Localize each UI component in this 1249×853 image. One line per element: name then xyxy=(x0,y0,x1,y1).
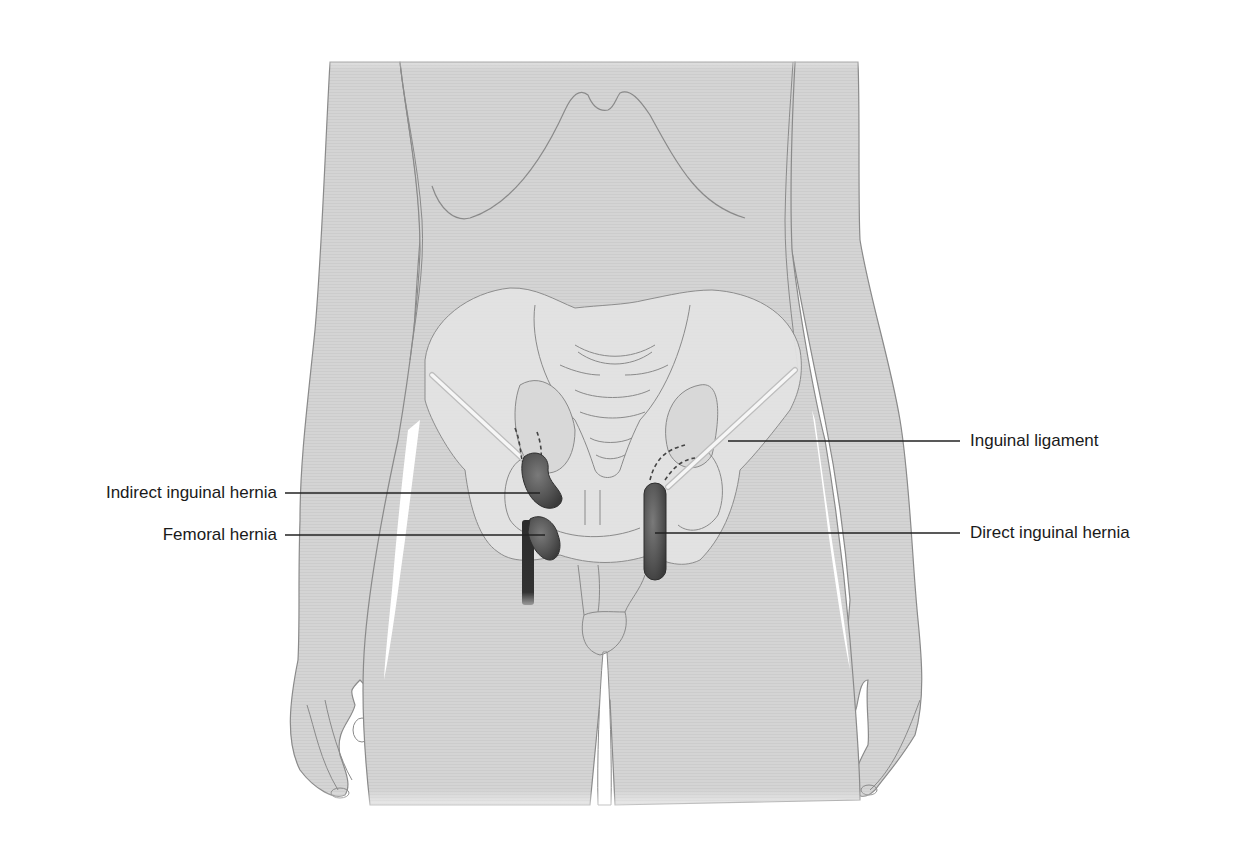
label-femoral-hernia: Femoral hernia xyxy=(163,525,277,545)
label-direct-inguinal-hernia: Direct inguinal hernia xyxy=(970,523,1130,543)
anatomy-illustration xyxy=(0,0,1249,853)
label-indirect-inguinal-hernia: Indirect inguinal hernia xyxy=(106,483,277,503)
label-inguinal-ligament: Inguinal ligament xyxy=(970,431,1099,451)
hernia-diagram: Inguinal ligament Indirect inguinal hern… xyxy=(0,0,1249,853)
direct-inguinal-hernia-shape xyxy=(644,483,666,580)
